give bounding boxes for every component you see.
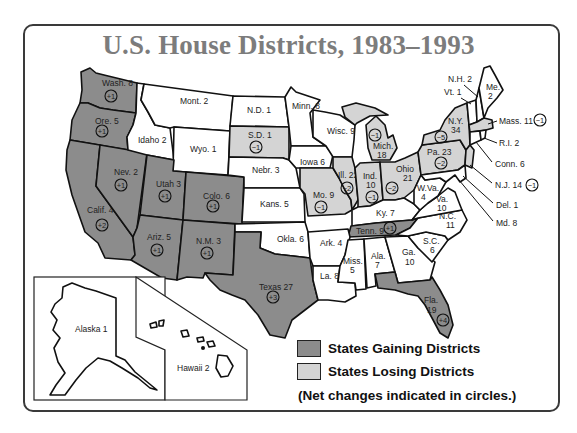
label-arkansas: Ark. 4 (320, 238, 342, 248)
svg-text:−5: −5 (437, 133, 446, 142)
state-wyoming: Wyo. 1 (173, 127, 230, 175)
state-new-mexico: N.M. 3 +1 (177, 220, 235, 280)
state-new-jersey (465, 145, 474, 168)
svg-text:2: 2 (488, 91, 493, 101)
legend-note: (Net changes indicated in circles.) (298, 388, 516, 403)
svg-text:+1: +1 (107, 92, 116, 101)
legend-item-gaining: States Gaining Districts (297, 340, 480, 357)
svg-text:+1: +1 (98, 127, 107, 136)
svg-text:+2: +2 (98, 221, 107, 230)
label-maryland: Md. 8 (496, 218, 518, 228)
state-south-dakota: S.D. 1 −1 (229, 126, 289, 160)
label-arizona: Ariz. 5 (147, 232, 171, 242)
label-south-dakota: S.D. 1 (248, 130, 272, 140)
state-maine: Me. 2 (479, 66, 503, 118)
label-hawaii: Hawaii 2 (177, 363, 210, 373)
svg-text:+1: +1 (386, 224, 395, 233)
svg-text:+1: +1 (153, 246, 162, 255)
label-pennsylvania: Pa. 23 (427, 147, 452, 157)
state-colorado: Colo. 6 +1 (183, 172, 244, 224)
svg-text:6: 6 (430, 245, 435, 255)
label-nebraska: Nebr. 3 (252, 165, 280, 175)
svg-text:+1: +1 (209, 202, 218, 211)
svg-text:−1: −1 (528, 181, 537, 190)
state-iowa: Iowa 6 (289, 146, 333, 168)
label-connecticut: Conn. 6 (495, 159, 525, 169)
label-washington: Wash. 8 (102, 78, 133, 88)
svg-text:−1: −1 (536, 116, 545, 125)
svg-text:+1: +1 (203, 249, 212, 258)
label-tennessee: Tenn. 9 (356, 226, 384, 236)
label-louisiana: La. 8 (320, 271, 339, 281)
svg-text:+1: +1 (117, 181, 126, 190)
label-north-dakota: N.D. 1 (247, 105, 271, 115)
label-nevada: Nev. 2 (114, 167, 138, 177)
svg-text:−1: −1 (252, 143, 261, 152)
state-north-dakota: N.D. 1 (230, 96, 289, 127)
label-alaska: Alaska 1 (75, 324, 108, 334)
label-texas: Texas 27 (259, 282, 293, 292)
state-kansas: Kans. 5 (242, 188, 305, 222)
legend-label-losing: States Losing Districts (328, 364, 474, 379)
label-missouri: Mo. 9 (313, 190, 335, 200)
svg-text:11: 11 (446, 220, 455, 230)
legend-item-losing: States Losing Districts (297, 363, 474, 380)
svg-text:10: 10 (437, 203, 447, 213)
state-florida: Fla. 19 +4 (375, 272, 453, 338)
label-idaho: Idaho 2 (138, 135, 167, 145)
label-georgia: Ga. (402, 247, 416, 257)
svg-text:+4: +4 (439, 316, 448, 325)
legend-swatch-losing (297, 363, 321, 380)
label-wisconsin: Wisc. 9 (327, 126, 355, 136)
label-wyoming: Wyo. 1 (190, 144, 217, 154)
label-rhode-island: R.I. 2 (499, 138, 520, 148)
legend-swatch-gaining (297, 340, 321, 357)
label-montana: Mont. 2 (180, 96, 209, 106)
label-kansas: Kans. 5 (260, 199, 289, 209)
svg-text:7: 7 (375, 260, 380, 270)
label-oregon: Ore. 5 (95, 116, 119, 126)
svg-text:18: 18 (377, 150, 387, 160)
state-connecticut (470, 131, 481, 145)
svg-text:−1: −1 (368, 193, 377, 202)
label-florida: Fla. (424, 295, 438, 305)
svg-text:21: 21 (403, 173, 413, 183)
state-arizona: Ariz. 5 +1 (131, 215, 183, 280)
svg-text:−2: −2 (343, 184, 352, 193)
label-massachusetts: Mass. 11 (499, 116, 533, 126)
svg-text:19: 19 (427, 305, 437, 315)
svg-text:−1: −1 (317, 203, 326, 212)
label-vermont: Vt. 1 (444, 87, 462, 97)
label-new-jersey: N.J. 14 (495, 180, 522, 190)
svg-text:−2: −2 (388, 184, 397, 193)
label-new-hampshire: N.H. 2 (448, 74, 472, 84)
svg-text:4: 4 (421, 192, 426, 202)
label-new-mexico: N.M. 3 (196, 236, 221, 246)
svg-text:10: 10 (366, 180, 376, 190)
svg-text:+3: +3 (269, 293, 278, 302)
label-iowa: Iowa 6 (300, 157, 325, 167)
label-delaware: Del. 1 (496, 200, 518, 210)
label-oklahoma: Okla. 6 (277, 234, 304, 244)
svg-text:−1: −1 (371, 131, 380, 140)
us-map: Wash. 8 +1 Ore. 5 +1 Calif. 45 +2 Nev. 2… (0, 0, 577, 433)
svg-text:−2: −2 (437, 159, 446, 168)
label-colorado: Colo. 6 (203, 191, 230, 201)
legend-label-gaining: States Gaining Districts (328, 341, 480, 356)
svg-text:5: 5 (350, 265, 355, 275)
label-minnesota: Minn. 8 (292, 101, 320, 111)
state-indiana: Ind. 10 −1 (355, 162, 383, 207)
svg-text:10: 10 (405, 257, 415, 267)
label-kentucky: Ky. 7 (376, 208, 395, 218)
svg-text:+1: +1 (161, 192, 170, 201)
svg-text:34: 34 (451, 125, 461, 135)
label-utah: Utah 3 (156, 179, 181, 189)
state-montana: Mont. 2 (141, 84, 233, 131)
